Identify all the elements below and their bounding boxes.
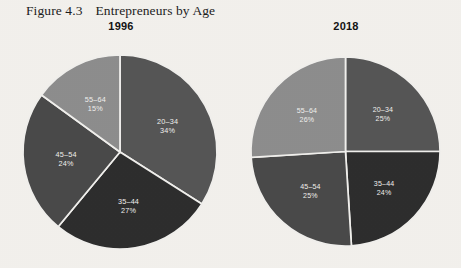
slice-category: 35–44 xyxy=(374,180,395,187)
slice-percent: 25% xyxy=(376,115,391,122)
slice-percent: 27% xyxy=(121,206,136,215)
figure-page: Figure 4.3Entrepreneurs by Age 1996 2018… xyxy=(0,0,461,268)
slice-category: 20–34 xyxy=(157,117,178,126)
pie-slice xyxy=(346,152,441,246)
slice-category: 45–54 xyxy=(300,183,321,190)
slice-label: 45–5424% xyxy=(56,150,77,168)
slice-category: 55–64 xyxy=(85,95,106,104)
slice-percent: 15% xyxy=(88,104,103,113)
slice-percent: 24% xyxy=(59,159,74,168)
slice-label: 35–4427% xyxy=(118,197,139,215)
slice-percent: 34% xyxy=(160,126,175,135)
chart-title-1996: 1996 xyxy=(95,20,147,32)
pie-chart-2018: 20–3425%35–4424%45–5425%55–6426% xyxy=(250,56,441,247)
slice-category: 35–44 xyxy=(118,197,139,206)
slice-label: 55–6415% xyxy=(85,95,106,113)
pie-slice xyxy=(346,57,441,152)
slice-category: 20–34 xyxy=(373,106,394,113)
pie-svg-1996: 20–3434%35–4427%45–5424%55–6415% xyxy=(22,54,218,250)
slice-percent: 26% xyxy=(300,116,315,123)
figure-title: Figure 4.3Entrepreneurs by Age xyxy=(26,3,215,19)
pie-svg-2018: 20–3425%35–4424%45–5425%55–6426% xyxy=(250,56,441,247)
figure-title-text: Entrepreneurs by Age xyxy=(96,3,216,18)
figure-number: Figure 4.3 xyxy=(26,3,83,18)
slice-percent: 25% xyxy=(303,192,318,199)
slice-percent: 24% xyxy=(377,189,392,196)
pie-slice xyxy=(251,152,351,247)
pie-chart-1996: 20–3434%35–4427%45–5424%55–6415% xyxy=(22,54,218,250)
slice-label: 20–3434% xyxy=(157,117,178,135)
slice-category: 55–64 xyxy=(297,107,318,114)
chart-title-2018: 2018 xyxy=(320,20,372,32)
slice-category: 45–54 xyxy=(56,150,77,159)
